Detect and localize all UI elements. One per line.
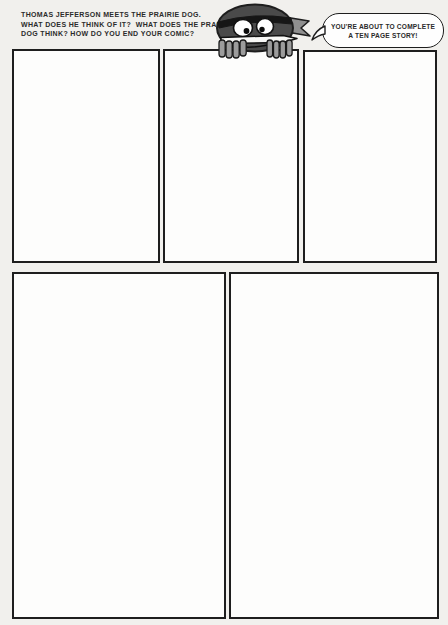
- character-right-hand: [267, 40, 292, 58]
- speech-bubble-tail-icon: [312, 24, 325, 42]
- character-left-hand: [219, 40, 246, 58]
- comic-panel-1: [12, 49, 160, 263]
- comic-panel-2: [163, 49, 299, 263]
- bubble-line-2: A TEN PAGE STORY!: [348, 31, 417, 40]
- comic-worksheet-page: THOMAS JEFFERSON MEETS THE PRAIRIE DOG. …: [0, 0, 448, 625]
- bandana-knife-mascot-illustration: [209, 2, 315, 62]
- comic-panel-5: [229, 272, 439, 619]
- writing-prompt: THOMAS JEFFERSON MEETS THE PRAIRIE DOG. …: [21, 10, 232, 39]
- prompt-line-3: DOG THINK? HOW DO YOU END YOUR COMIC?: [21, 29, 232, 39]
- character-pupil-left: [244, 28, 250, 34]
- comic-panel-3: [303, 50, 437, 263]
- speech-bubble: YOU'RE ABOUT TO COMPLETE A TEN PAGE STOR…: [322, 13, 444, 48]
- bubble-line-1: YOU'RE ABOUT TO COMPLETE: [331, 22, 435, 31]
- comic-panel-4: [12, 272, 226, 619]
- character-eye-left: [234, 20, 253, 37]
- character-pupil-right: [259, 27, 264, 32]
- character-eye-right: [257, 19, 274, 35]
- prompt-line-1: THOMAS JEFFERSON MEETS THE PRAIRIE DOG.: [21, 10, 232, 20]
- prompt-line-2: WHAT DOES HE THINK OF IT? WHAT DOES THE …: [21, 20, 232, 30]
